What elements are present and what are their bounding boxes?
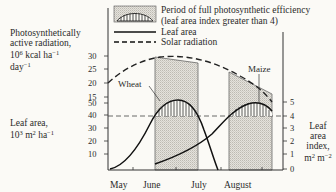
lai-tick-0: 0 (290, 164, 294, 174)
legend (114, 6, 156, 42)
lai-tick-3: 3 (290, 123, 294, 133)
month-june: June (143, 180, 160, 190)
la-tick-20: 20 (88, 136, 97, 146)
par-tick-20: 20 (88, 78, 97, 88)
legend-hatch-sublabel: (leaf area index greater than 4) (161, 16, 278, 26)
leaf-area-ticks (104, 103, 108, 154)
month-july: July (191, 180, 207, 190)
legend-hatch-label: Period of full photosynthetic efficiency (161, 5, 310, 15)
month-august: August (224, 180, 251, 190)
month-may: May (110, 180, 127, 190)
la-tick-50: 50 (88, 98, 97, 108)
maize-efficiency-period (229, 72, 272, 170)
lai-tick-4: 4 (290, 111, 294, 121)
par-tick-25: 25 (88, 64, 97, 74)
wheat-annotation: Wheat (118, 79, 141, 89)
la-tick-10: 10 (88, 149, 97, 159)
legend-dashed-label: Solar radiation (161, 37, 217, 47)
lai-tick-2: 2 (290, 136, 294, 146)
par-tick-30: 30 (88, 51, 97, 61)
lai-tick-1: 1 (290, 149, 294, 159)
lai-tick-5: 5 (290, 97, 294, 107)
legend-solid-label: Leaf area (161, 27, 197, 37)
par-ticks (104, 56, 108, 97)
lai-ticks (283, 102, 287, 169)
la-tick-30: 30 (88, 123, 97, 133)
la-tick-40: 40 (88, 110, 97, 120)
maize-annotation: Maize (248, 64, 271, 74)
